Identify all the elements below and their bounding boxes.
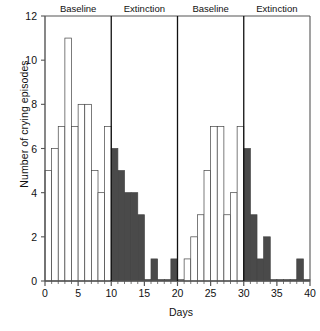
bar xyxy=(211,126,218,281)
bar xyxy=(91,171,98,281)
bar xyxy=(191,237,198,281)
x-tick-label: 5 xyxy=(75,287,81,299)
bar xyxy=(105,126,112,281)
x-tick-label: 25 xyxy=(205,287,217,299)
crying-episodes-chart: Number of crying episodes Days 024681012… xyxy=(0,0,320,331)
bar xyxy=(257,259,264,281)
bar xyxy=(244,149,251,282)
y-tick-label: 0 xyxy=(0,275,37,287)
bar xyxy=(52,149,59,282)
bar xyxy=(98,193,105,281)
x-tick-label: 30 xyxy=(238,287,250,299)
bar xyxy=(138,215,145,281)
bar xyxy=(297,259,304,281)
bar xyxy=(118,171,125,281)
bar xyxy=(58,126,65,281)
bar xyxy=(151,259,158,281)
x-axis-label-text: Days xyxy=(127,306,193,318)
phase-label-1: Baseline xyxy=(60,3,96,14)
bar xyxy=(171,259,178,281)
bar xyxy=(204,171,211,281)
bar xyxy=(264,237,271,281)
y-tick-label: 6 xyxy=(0,143,37,155)
bar xyxy=(224,215,231,281)
y-tick-label: 4 xyxy=(0,187,37,199)
x-tick-label: 35 xyxy=(271,287,283,299)
bar xyxy=(72,126,79,281)
y-tick-label: 10 xyxy=(0,54,37,66)
bar xyxy=(45,171,52,281)
bar xyxy=(237,126,244,281)
phase-label-4: Extinction xyxy=(256,3,297,14)
bar xyxy=(65,38,72,281)
phase-label-2: Extinction xyxy=(124,3,165,14)
bar xyxy=(184,259,191,281)
bar xyxy=(131,193,138,281)
x-axis-label: Days xyxy=(0,306,320,318)
bar xyxy=(111,149,118,282)
bar xyxy=(125,193,132,281)
bar xyxy=(250,215,257,281)
x-tick-label: 40 xyxy=(304,287,316,299)
y-tick-label: 8 xyxy=(0,98,37,110)
bar xyxy=(78,104,85,281)
x-tick-label: 10 xyxy=(105,287,117,299)
x-tick-label: 0 xyxy=(42,287,48,299)
x-tick-label: 20 xyxy=(172,287,184,299)
x-tick-label: 15 xyxy=(139,287,151,299)
bar xyxy=(231,193,238,281)
bar xyxy=(217,126,224,281)
y-axis-label: Number of crying episodes xyxy=(18,4,30,244)
bar xyxy=(85,104,92,281)
bar xyxy=(197,215,204,281)
plot-area xyxy=(0,0,320,331)
y-tick-label: 12 xyxy=(0,10,37,22)
phase-label-3: Baseline xyxy=(192,3,228,14)
y-tick-label: 2 xyxy=(0,231,37,243)
